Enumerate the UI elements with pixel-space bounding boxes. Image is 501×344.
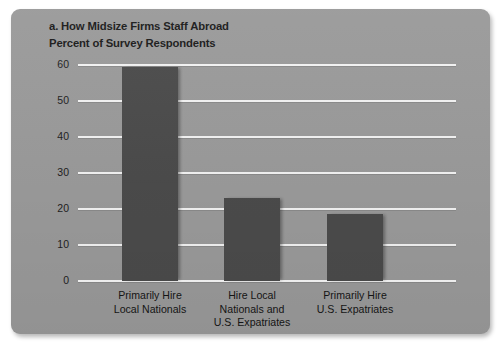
y-axis-tick-label: 30 xyxy=(35,166,69,178)
y-axis-tick-label: 20 xyxy=(35,202,69,214)
bar xyxy=(327,214,383,281)
x-axis-category-label: Hire LocalNationals andU.S. Expatriates xyxy=(198,289,306,330)
y-axis-tick-label: 50 xyxy=(35,94,69,106)
bar xyxy=(122,67,178,281)
x-axis-label-line: U.S. Expatriates xyxy=(198,316,306,330)
y-axis-tick-label: 60 xyxy=(35,58,69,70)
x-axis-label-line: Primarily Hire xyxy=(96,289,204,303)
x-axis-label-line: Nationals and xyxy=(198,303,306,317)
chart-card: a. How Midsize Firms Staff Abroad Percen… xyxy=(11,9,490,334)
plot-area: 0102030405060Primarily HireLocal Nationa… xyxy=(11,9,490,334)
x-axis-label-line: Local Nationals xyxy=(96,303,204,317)
y-axis-tick-label: 40 xyxy=(35,130,69,142)
x-axis-category-label: Primarily HireU.S. Expatriates xyxy=(301,289,409,316)
x-axis-label-line: U.S. Expatriates xyxy=(301,303,409,317)
y-axis-tick-label: 0 xyxy=(35,274,69,286)
gridline-60 xyxy=(78,64,456,66)
y-axis-tick-label: 10 xyxy=(35,238,69,250)
bar xyxy=(224,198,280,281)
x-axis-label-line: Hire Local xyxy=(198,289,306,303)
x-axis-label-line: Primarily Hire xyxy=(301,289,409,303)
figure-page: a. How Midsize Firms Staff Abroad Percen… xyxy=(0,0,501,344)
x-axis-category-label: Primarily HireLocal Nationals xyxy=(96,289,204,316)
